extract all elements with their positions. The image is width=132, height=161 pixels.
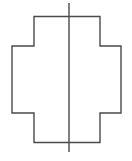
figure-canvas: Cross shape with vertical line of symmet…	[0, 0, 132, 161]
cross-shape-outline	[12, 17, 121, 143]
geometry-figure-svg	[0, 0, 132, 161]
